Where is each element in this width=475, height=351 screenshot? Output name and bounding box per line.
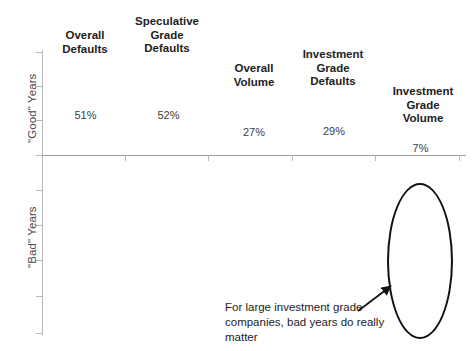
category-header-investment-grade-defaults: Investment Grade Defaults bbox=[292, 48, 374, 89]
axis-label-good-years: "Good" Years bbox=[26, 74, 38, 143]
bar-value-label-good: 52% bbox=[149, 110, 188, 121]
bar-value-label-bad: 49% bbox=[66, 193, 105, 204]
x-axis-tick bbox=[459, 155, 460, 161]
bar-value-label-bad: 73% bbox=[235, 215, 273, 226]
x-axis-tick bbox=[375, 155, 376, 161]
y-axis-tick bbox=[36, 333, 43, 334]
x-axis-tick bbox=[292, 155, 293, 161]
bar-value-label-good: 27% bbox=[235, 127, 273, 138]
x-axis-tick bbox=[208, 155, 209, 161]
category-header-overall-volume: Overall Volume bbox=[216, 62, 292, 89]
category-header-investment-grade-volume: Investment Grade Volume bbox=[380, 85, 466, 126]
bar-value-label-bad: 71% bbox=[315, 214, 353, 225]
bar-value-label-good: 29% bbox=[315, 126, 353, 137]
y-axis-tick bbox=[36, 52, 43, 53]
bar-value-label-good: 51% bbox=[66, 110, 105, 121]
annotation-text: For large investment grade companies, ba… bbox=[225, 300, 385, 345]
category-header-speculative-grade-defaults: Speculative Grade Defaults bbox=[126, 15, 208, 56]
y-axis-tick bbox=[36, 190, 43, 191]
highlight-ellipse bbox=[387, 183, 453, 339]
chart-container: "Good" Years "Bad" Years Overall Default… bbox=[0, 0, 475, 351]
y-axis-line bbox=[42, 50, 43, 335]
y-axis-tick bbox=[36, 296, 43, 297]
bar-value-label-good: 7% bbox=[402, 143, 439, 154]
x-axis-tick bbox=[125, 155, 126, 161]
axis-label-bad-years: "Bad" Years bbox=[26, 206, 38, 268]
zero-baseline bbox=[42, 155, 466, 156]
bar-value-label-bad: 48% bbox=[149, 193, 188, 204]
category-header-overall-defaults: Overall Defaults bbox=[46, 29, 124, 56]
